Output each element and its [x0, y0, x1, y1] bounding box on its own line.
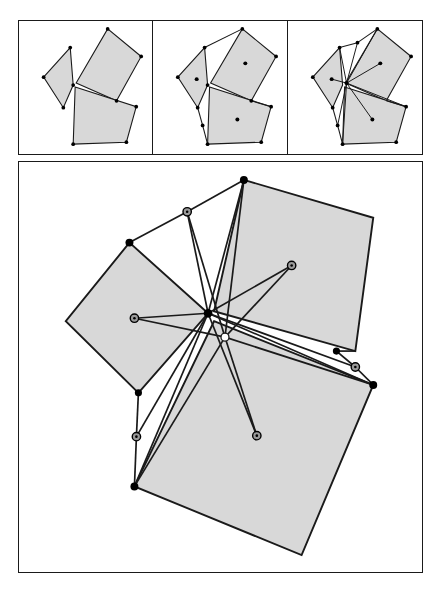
connector-edge	[198, 108, 203, 126]
vertex-marker	[356, 41, 360, 45]
panel-step-3	[287, 20, 423, 155]
vertex-marker	[106, 27, 110, 31]
vertex-marker	[240, 176, 248, 184]
vertex-marker	[135, 389, 142, 396]
vertex-marker	[115, 99, 119, 103]
vertex-marker	[274, 55, 278, 59]
vertex-marker	[125, 140, 129, 144]
panel-step-2	[152, 20, 288, 155]
vertex-marker	[269, 105, 273, 109]
vertex-marker	[42, 75, 46, 79]
vertex-marker	[203, 46, 207, 50]
left-square	[178, 48, 208, 108]
figure-page: Three squares construction: centers, cev…	[0, 0, 438, 591]
vertex-marker	[125, 239, 133, 247]
connector-edge	[338, 125, 343, 144]
vertex-marker	[311, 75, 315, 79]
vertex-marker	[139, 55, 143, 59]
ring-marker	[132, 432, 140, 440]
ring-marker-inner	[354, 366, 357, 369]
connector-edge	[203, 125, 208, 144]
ring-marker-inner	[133, 317, 136, 320]
panel-3-squares	[313, 29, 411, 144]
connector-edge	[136, 393, 138, 437]
vertex-marker	[333, 347, 340, 354]
concurrency-hub-marker	[344, 81, 348, 85]
square-center-marker	[235, 118, 239, 122]
vertex-marker	[331, 106, 335, 110]
vertex-marker	[134, 105, 138, 109]
vertex-marker	[206, 83, 210, 87]
vertex-marker	[369, 381, 377, 389]
ring-marker-inner	[290, 264, 293, 267]
panel-3-canvas	[288, 21, 422, 154]
square-center-marker	[195, 77, 199, 81]
square-center-marker	[330, 77, 334, 81]
vertex-marker	[394, 140, 398, 144]
vertex-marker	[68, 46, 72, 50]
left-square	[44, 48, 74, 108]
vertex-marker	[201, 124, 205, 128]
connector-edge	[333, 108, 338, 126]
main-panel-canvas	[19, 162, 422, 572]
vertex-marker	[130, 482, 138, 490]
panel-2-squares	[178, 29, 276, 144]
vertex-marker	[71, 142, 75, 146]
vertex-marker	[240, 27, 244, 31]
connector-edge	[187, 180, 244, 212]
ring-marker	[130, 314, 138, 322]
ring-marker	[183, 208, 191, 216]
left-square	[313, 48, 343, 108]
vertex-marker	[206, 142, 210, 146]
vertex-marker	[336, 124, 340, 128]
connector-edge	[134, 437, 136, 487]
ring-marker-inner	[186, 210, 189, 213]
ring-marker-inner	[256, 434, 259, 437]
panel-1-canvas	[19, 21, 152, 154]
concurrency-hub-marker	[204, 309, 213, 318]
vertex-marker	[249, 99, 253, 103]
square-center-marker	[243, 61, 247, 65]
vertex-marker	[71, 83, 75, 87]
vertex-marker	[409, 55, 413, 59]
vertex-marker	[196, 106, 200, 110]
vertex-marker	[61, 106, 65, 110]
connector-edge	[129, 212, 187, 243]
ring-marker	[287, 261, 295, 269]
ring-marker-inner	[135, 435, 138, 438]
white-node-marker	[221, 333, 229, 341]
main-hollow-marker	[221, 333, 229, 341]
ring-marker	[253, 431, 261, 439]
main-squares	[66, 180, 373, 555]
panel-1-squares	[44, 29, 142, 144]
panel-step-1	[18, 20, 153, 155]
vertex-marker	[404, 105, 408, 109]
square-center-marker	[378, 61, 382, 65]
connector-edge	[340, 43, 358, 48]
vertex-marker	[338, 46, 342, 50]
vertex-marker	[259, 140, 263, 144]
vertex-marker	[375, 27, 379, 31]
panel-enlarged	[18, 161, 423, 573]
vertex-marker	[341, 142, 345, 146]
vertex-marker	[176, 75, 180, 79]
ring-marker	[351, 363, 359, 371]
square-center-marker	[370, 118, 374, 122]
panel-2-canvas	[153, 21, 287, 154]
